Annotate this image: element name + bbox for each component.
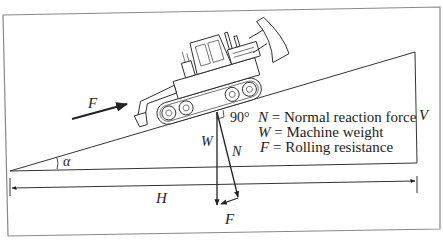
angle-label: α <box>63 154 71 169</box>
weight-vector-label: W <box>201 134 214 149</box>
resultant-force-label: F <box>224 211 235 227</box>
incline-force-diagram: α H V F <box>0 0 443 240</box>
legend-item-normal: N = Normal reaction force <box>257 109 417 125</box>
angle-arc <box>57 158 58 169</box>
applied-force-label: F <box>87 95 98 111</box>
legend-item-weight: W = Machine weight <box>258 124 384 140</box>
right-angle-label: 90° <box>230 110 250 125</box>
legend: N = Normal reaction force W = Machine we… <box>257 109 417 155</box>
legend-item-rolling: F = Rolling resistance <box>259 139 393 155</box>
horizontal-label: H <box>155 190 168 206</box>
vertical-label: V <box>419 107 430 123</box>
applied-force-arrow <box>72 104 127 119</box>
resultant-force-arrow <box>221 198 238 204</box>
horizontal-dimension <box>10 176 417 196</box>
normal-vector-label: N <box>231 144 242 159</box>
